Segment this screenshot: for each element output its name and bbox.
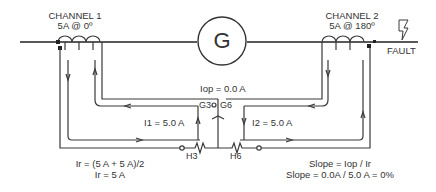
generator-label: G — [200, 29, 244, 53]
i1-label: I1 = 5.0 A — [144, 117, 184, 128]
iop-label: Iop = 0.0 A — [200, 83, 246, 94]
fault-label: FAULT — [387, 45, 416, 56]
terminal-g3: G3 — [199, 100, 211, 111]
outer-loop-right — [256, 48, 370, 148]
terminal-h6: H6 — [230, 151, 242, 162]
ct2-coil — [322, 36, 364, 42]
slope-result: Slope = 0.0A / 5.0 A = 0% — [265, 169, 415, 180]
outer-loop-left — [60, 48, 186, 148]
lightning-bolt-icon — [399, 20, 408, 40]
terminal-h3: H3 — [186, 151, 198, 162]
ct1-coil — [58, 36, 100, 42]
channel2-current: 5A @ 180º — [312, 20, 392, 31]
restraint-formula: Ir = (5 A + 5 A)/2 — [55, 158, 165, 169]
restraint-result: Ir = 5 A — [55, 169, 165, 180]
channel1-current: 5A @ 0º — [35, 20, 115, 31]
terminal-g6: G6 — [220, 100, 232, 111]
slope-formula: Slope = Iop / Ir — [265, 158, 415, 169]
ct2-polarity-dot — [367, 44, 371, 48]
ct1-polarity-dot — [56, 40, 60, 44]
i2-label: I2 = 5.0 A — [252, 117, 292, 128]
